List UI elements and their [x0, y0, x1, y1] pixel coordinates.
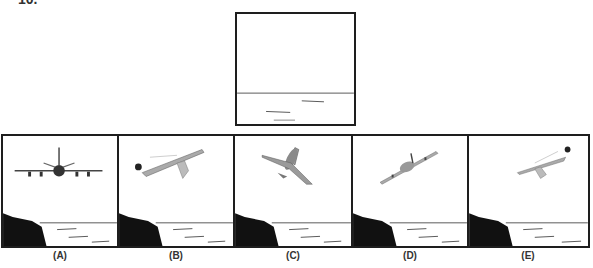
cliff-shape — [119, 213, 162, 246]
plane-climbing-left-icon — [119, 136, 233, 246]
plane-climbing-right-icon — [469, 136, 588, 246]
option-d-figure[interactable] — [351, 134, 469, 248]
option-c-label: (C) — [235, 250, 351, 261]
cliff-shape — [469, 213, 512, 246]
option-a-label: (A) — [2, 250, 118, 261]
question-figure — [235, 12, 356, 126]
option-e-figure[interactable] — [467, 134, 590, 248]
cliff-shape — [353, 213, 396, 246]
question-number: 10. — [18, 0, 37, 7]
plane-rear-view-banking-icon — [353, 136, 467, 246]
option-e-label: (E) — [470, 250, 586, 261]
plane-front-view-icon — [3, 136, 117, 246]
option-a-figure[interactable] — [1, 134, 119, 248]
option-b-figure[interactable] — [117, 134, 235, 248]
option-c-figure[interactable] — [233, 134, 353, 248]
sea-horizon-scene — [237, 14, 354, 124]
option-d-label: (D) — [352, 250, 468, 261]
cliff-shape — [3, 213, 46, 246]
cliff-shape — [235, 213, 278, 246]
option-b-label: (B) — [118, 250, 234, 261]
sun-icon — [565, 147, 571, 153]
plane-top-view-diving-icon — [235, 136, 351, 246]
sun-icon — [135, 164, 142, 171]
